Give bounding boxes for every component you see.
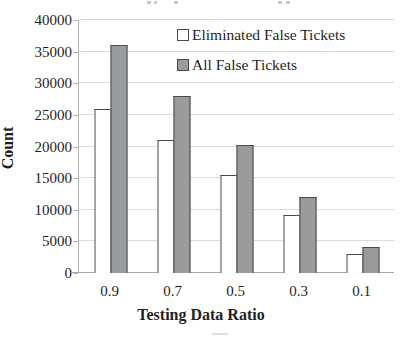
y-tick-label: 10000 — [0, 201, 72, 219]
y-tick-label: 25000 — [0, 106, 72, 124]
cropped-text-remnant — [174, 1, 178, 4]
legend-label: All False Tickets — [192, 56, 297, 74]
bar-eliminated-0.5 — [220, 175, 237, 273]
bar-all-0.3 — [299, 197, 316, 273]
x-tick-label-0.7: 0.7 — [141, 283, 204, 300]
bar-all-0.5 — [236, 145, 253, 273]
x-axis-title: Testing Data Ratio — [0, 306, 402, 324]
y-tick-label: 15000 — [0, 169, 72, 187]
legend-item-all: All False Tickets — [177, 55, 345, 74]
bar-pair-0.1 — [346, 247, 379, 273]
cropped-text-remnant — [286, 1, 290, 4]
category-slot-0.9 — [79, 20, 142, 273]
x-tick-label-0.3: 0.3 — [267, 283, 330, 300]
bar-pair-0.9 — [94, 45, 127, 273]
x-tick-label-0.5: 0.5 — [204, 283, 267, 300]
y-tick-label: 5000 — [0, 232, 72, 250]
bar-eliminated-0.9 — [94, 109, 111, 273]
legend-item-eliminated: Eliminated False Tickets — [177, 25, 345, 44]
legend-swatch — [177, 59, 189, 71]
cropped-text-remnant — [154, 1, 157, 4]
y-axis-labels: 0500010000150002000025000300003500040000 — [0, 0, 72, 338]
x-tick-label-0.9: 0.9 — [78, 283, 141, 300]
legend-swatch — [177, 29, 189, 41]
y-tick-label: 40000 — [0, 11, 72, 29]
bar-chart: Count 0500010000150002000025000300003500… — [0, 0, 402, 338]
y-tick-label: 20000 — [0, 138, 72, 156]
y-tick-label: 35000 — [0, 43, 72, 61]
legend: Eliminated False TicketsAll False Ticket… — [177, 25, 345, 85]
y-tick-label: 30000 — [0, 74, 72, 92]
bar-pair-0.3 — [283, 197, 316, 273]
y-tick-label: 0 — [0, 264, 72, 282]
y-tick-mark — [73, 273, 78, 274]
bar-all-0.7 — [173, 96, 190, 273]
cropped-text-remnant — [278, 1, 282, 4]
bar-all-0.1 — [362, 247, 379, 273]
bar-eliminated-0.7 — [157, 140, 174, 273]
bar-eliminated-0.3 — [283, 215, 300, 273]
cropped-text-remnant — [212, 333, 228, 335]
cropped-text-remnant — [147, 1, 151, 4]
legend-label: Eliminated False Tickets — [192, 26, 345, 44]
bar-pair-0.5 — [220, 145, 253, 273]
bar-all-0.9 — [110, 45, 127, 273]
x-tick-label-0.1: 0.1 — [330, 283, 393, 300]
bar-eliminated-0.1 — [346, 254, 363, 273]
bar-pair-0.7 — [157, 96, 190, 273]
x-axis-labels: 0.90.70.50.30.1 — [78, 283, 393, 303]
